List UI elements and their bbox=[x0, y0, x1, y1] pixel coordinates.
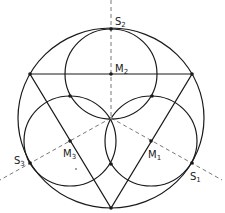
vertex-bottom bbox=[109, 206, 113, 210]
label-s2: S2 bbox=[115, 16, 126, 29]
vertex-right bbox=[190, 72, 194, 76]
point-s2 bbox=[109, 27, 113, 31]
axis-lower-left bbox=[0, 118, 111, 180]
axis-lower-right bbox=[111, 118, 222, 180]
point-m3 bbox=[68, 139, 72, 143]
intersection-left bbox=[68, 94, 72, 98]
dashed-axes bbox=[0, 0, 222, 180]
stray-dot bbox=[75, 168, 77, 170]
point-s1 bbox=[190, 161, 194, 165]
vertex-left bbox=[28, 72, 32, 76]
geometry-diagram: S2 M2 M3 M1 S3 S1 bbox=[0, 0, 225, 213]
center-point bbox=[110, 117, 112, 119]
point-m2 bbox=[109, 72, 113, 76]
label-m1: M1 bbox=[148, 149, 161, 162]
intersection-bottom bbox=[109, 162, 113, 166]
label-m3: M3 bbox=[63, 148, 76, 161]
label-s3: S3 bbox=[14, 155, 25, 168]
point-s3 bbox=[28, 161, 32, 165]
intersection-right bbox=[150, 94, 154, 98]
label-s1: S1 bbox=[190, 171, 201, 184]
point-m1 bbox=[149, 139, 153, 143]
